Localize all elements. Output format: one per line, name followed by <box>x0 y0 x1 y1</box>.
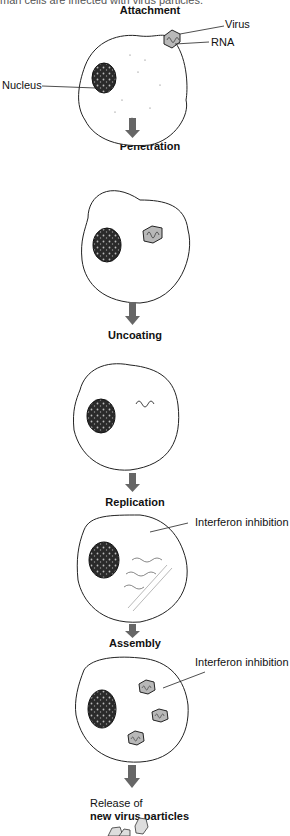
virus-icon <box>128 731 144 745</box>
virus-icon <box>139 680 155 694</box>
nucleus-icon <box>89 542 119 578</box>
nucleus-icon <box>92 63 116 93</box>
arrow-down-icon <box>125 302 140 325</box>
nucleus-icon <box>87 399 115 433</box>
virus-icon <box>135 818 148 834</box>
cell-penetration <box>82 191 190 303</box>
cell-assembly <box>75 657 205 762</box>
viral-lifecycle-diagram <box>0 0 290 836</box>
released-virus-particles <box>108 818 148 836</box>
cell-uncoating <box>73 364 178 470</box>
arrow-down-icon <box>124 765 140 788</box>
arrow-down-icon <box>125 624 140 638</box>
virus-icon <box>152 709 168 722</box>
nucleus-icon <box>88 690 116 728</box>
leader-line-virus <box>180 26 224 34</box>
nucleus-icon <box>93 228 121 262</box>
cell-replication <box>77 515 188 622</box>
arrow-down-icon <box>125 473 140 492</box>
